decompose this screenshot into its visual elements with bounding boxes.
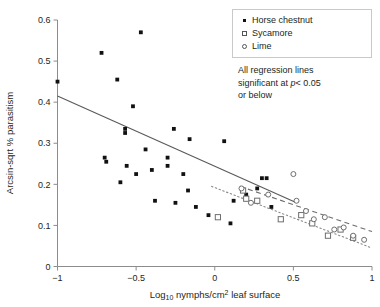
x-axis-ticks: −1−0.500.51: [52, 267, 374, 283]
data-point-horse-chestnut: [144, 148, 148, 152]
data-point-sycamore: [244, 196, 249, 201]
data-point-horse-chestnut: [153, 199, 157, 203]
data-point-horse-chestnut: [150, 168, 154, 172]
data-point-horse-chestnut: [186, 189, 190, 193]
legend-label: Sycamore: [250, 27, 293, 40]
data-point-horse-chestnut: [100, 51, 104, 55]
data-point-sycamore: [278, 217, 283, 222]
data-point-lime: [351, 233, 356, 238]
note-line-2: significant at p< 0.05: [238, 77, 378, 90]
data-point-horse-chestnut: [123, 131, 127, 135]
data-point-horse-chestnut: [181, 172, 185, 176]
data-point-horse-chestnut: [260, 176, 264, 180]
note-line-2-pre: significant at: [238, 78, 291, 88]
data-point-horse-chestnut: [265, 176, 269, 180]
x-tick-label: 0.5: [287, 273, 300, 283]
legend-label: Lime: [250, 40, 272, 53]
filled-square-icon: [239, 19, 250, 23]
data-point-horse-chestnut: [269, 205, 273, 209]
y-tick-label: 0.4: [38, 97, 51, 107]
data-point-horse-chestnut: [255, 187, 259, 191]
data-point-lime: [266, 192, 271, 197]
data-points: [56, 30, 367, 242]
data-point-horse-chestnut: [166, 156, 170, 160]
open-circle-icon: [239, 44, 250, 49]
data-point-horse-chestnut: [115, 78, 119, 82]
data-point-horse-chestnut: [174, 201, 178, 205]
legend-item-horse-chestnut: Horse chestnut: [239, 14, 366, 27]
data-point-lime: [291, 172, 296, 177]
data-point-lime: [294, 198, 299, 203]
legend-item-sycamore: Sycamore: [239, 27, 366, 40]
note-line-2-post: < 0.05: [296, 78, 321, 88]
x-tick-label: −1: [52, 273, 62, 283]
data-point-horse-chestnut: [104, 160, 108, 164]
data-point-horse-chestnut: [56, 80, 60, 84]
data-point-lime: [248, 200, 253, 205]
legend-item-lime: Lime: [239, 40, 366, 53]
data-point-horse-chestnut: [222, 139, 226, 143]
x-axis-title-text: Log10 nymphs/cm2 leaf surface: [150, 289, 281, 301]
data-point-sycamore: [299, 213, 304, 218]
data-point-lime: [322, 215, 327, 220]
note-line-1: All regression lines: [238, 64, 378, 77]
data-point-horse-chestnut: [125, 164, 129, 168]
data-point-horse-chestnut: [166, 164, 170, 168]
data-point-sycamore: [325, 233, 330, 238]
data-point-horse-chestnut: [229, 221, 233, 225]
regression-line-lime: [212, 186, 372, 248]
data-point-horse-chestnut: [207, 213, 211, 217]
x-tick-label: 1: [369, 273, 374, 283]
data-point-sycamore: [255, 198, 260, 203]
y-axis-title: Arcsin-sqrt % parasitism: [4, 92, 15, 194]
y-tick-label: 0.5: [38, 56, 51, 66]
note-line-3: or below: [238, 89, 378, 102]
y-tick-label: 0.2: [38, 180, 51, 190]
x-tick-label: 0: [212, 273, 217, 283]
data-point-horse-chestnut: [131, 104, 135, 108]
x-tick-label: −0.5: [127, 273, 145, 283]
data-point-sycamore: [215, 215, 220, 220]
significance-note: All regression lines significant at p< 0…: [238, 64, 378, 102]
data-point-horse-chestnut: [172, 127, 176, 131]
data-point-horse-chestnut: [139, 30, 143, 34]
chart-figure: 00.10.20.30.40.50.6 −1−0.500.51 Arcsin-s…: [0, 0, 380, 307]
regression-line-horse-chestnut: [58, 96, 297, 203]
data-point-lime: [311, 217, 316, 222]
data-point-lime: [362, 237, 367, 242]
data-point-horse-chestnut: [103, 156, 107, 160]
y-axis-ticks: 00.10.20.30.40.50.6: [38, 15, 58, 272]
y-tick-label: 0.6: [38, 15, 51, 25]
legend: Horse chestnut Sycamore Lime: [232, 9, 372, 58]
y-axis-title-text: Arcsin-sqrt % parasitism: [4, 92, 15, 194]
y-tick-label: 0.3: [38, 138, 51, 148]
legend-label: Horse chestnut: [250, 14, 313, 27]
data-point-horse-chestnut: [119, 180, 123, 184]
data-point-lime: [332, 227, 337, 232]
data-point-horse-chestnut: [134, 172, 138, 176]
data-point-lime: [239, 186, 244, 191]
x-axis-title: Log10 nymphs/cm2 leaf surface: [150, 289, 281, 301]
data-point-lime: [341, 225, 346, 230]
data-point-horse-chestnut: [232, 199, 236, 203]
data-point-lime: [303, 209, 308, 214]
y-tick-label: 0.1: [38, 221, 51, 231]
regression-lines: [58, 96, 373, 248]
data-point-horse-chestnut: [123, 127, 127, 131]
y-tick-label: 0: [45, 262, 50, 272]
data-point-horse-chestnut: [188, 137, 192, 141]
data-point-horse-chestnut: [194, 205, 198, 209]
open-square-icon: [239, 31, 250, 36]
